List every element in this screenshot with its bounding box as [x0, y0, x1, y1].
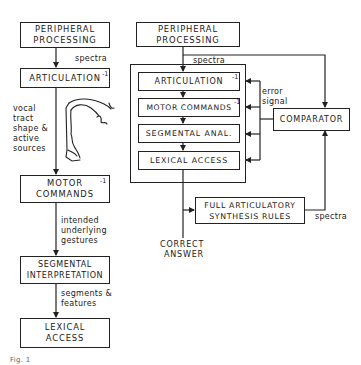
right-articulation-inverse-box: ARTICULATION: [138, 72, 240, 91]
box-label: FULL ARTICULATORY SYNTHESIS RULES: [198, 200, 302, 222]
gestures-label: gestures: [61, 236, 98, 246]
right-lexical-access-box: LEXICAL ACCESS: [138, 151, 240, 170]
right-peripheral-processing-box: PERIPHERAL PROCESSING: [136, 22, 240, 47]
inverse-superscript: -1: [234, 99, 240, 106]
left-motor-commands-inverse-box: MOTOR COMMANDS: [20, 175, 110, 203]
vocal-tract-label: vocal: [13, 104, 36, 114]
vocal-tract-label: tract: [13, 114, 33, 124]
correct-answer-label: CORRECT: [160, 240, 204, 250]
box-label: ARTICULATION: [155, 76, 224, 87]
right-segmental-analysis-box: SEGMENTAL ANAL.: [138, 124, 240, 143]
box-label: LEXICAL ACCESS: [40, 322, 90, 344]
box-label: ARTICULATION: [29, 73, 101, 84]
correct-answer-label: ANSWER: [164, 250, 204, 260]
left-peripheral-processing-box: PERIPHERAL PROCESSING: [20, 22, 110, 48]
error-signal-label: signal: [262, 97, 287, 107]
vocal-tract-label: shape &: [13, 124, 48, 134]
left-spectra-label: spectra: [75, 54, 107, 64]
inverse-superscript: -1: [232, 74, 238, 81]
gestures-label: underlying: [61, 226, 107, 236]
left-lexical-access-box: LEXICAL ACCESS: [20, 318, 110, 348]
inverse-superscript: -1: [102, 71, 108, 78]
box-label: PERIPHERAL PROCESSING: [30, 24, 100, 46]
box-label: MOTOR COMMANDS: [146, 102, 231, 113]
box-label: COMPARATOR: [280, 114, 343, 125]
full-articulatory-synthesis-rules-box: FULL ARTICULATORY SYNTHESIS RULES: [195, 197, 305, 224]
gestures-label: intended: [61, 216, 99, 226]
vocal-tract-label: active: [13, 134, 39, 144]
right-spectra-bottom-label: spectra: [315, 212, 347, 222]
box-label: LEXICAL ACCESS: [150, 155, 228, 166]
right-motor-commands-inverse-box: MOTOR COMMANDS: [138, 98, 240, 117]
segments-label: segments &: [61, 289, 112, 299]
box-label: MOTOR COMMANDS: [35, 178, 95, 200]
figure-caption: Fig. 1: [10, 355, 31, 365]
left-articulation-inverse-box: ARTICULATION: [20, 68, 110, 88]
error-signal-label: error: [262, 87, 283, 97]
vocal-tract-illustration: [66, 99, 114, 161]
inverse-superscript: -1: [100, 178, 106, 185]
vocal-tract-label: sources: [13, 144, 46, 154]
box-label: PERIPHERAL PROCESSING: [148, 24, 228, 46]
box-label: SEGMENTAL INTERPRETATION: [22, 259, 108, 281]
left-segmental-interpretation-box: SEGMENTAL INTERPRETATION: [20, 256, 110, 284]
box-label: SEGMENTAL ANAL.: [146, 128, 233, 139]
segments-label: features: [61, 299, 96, 309]
comparator-box: COMPARATOR: [273, 108, 350, 131]
